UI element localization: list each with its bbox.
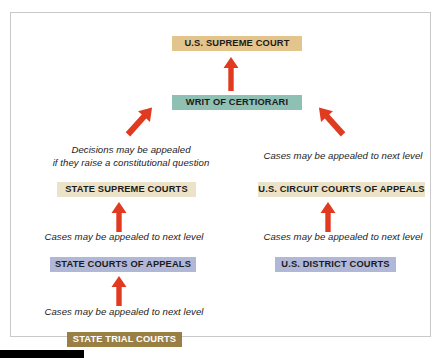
caption-constitutional-question: Decisions may be appealed if they raise … <box>31 144 231 169</box>
caption-trial-appeal: Cases may be appealed to next level <box>29 306 219 319</box>
node-state-supreme-courts: STATE SUPREME COURTS <box>57 182 196 197</box>
node-us-circuit-courts-of-appeals: U.S. CIRCUIT COURTS OF APPEALS <box>258 182 425 197</box>
node-label: STATE COURTS OF APPEALS <box>55 260 191 269</box>
arrow-up-left-circuit-to-writ-icon <box>310 101 352 141</box>
caption-state-appeal: Cases may be appealed to next level <box>29 231 219 244</box>
caption-district-appeal: Cases may be appealed to next level <box>247 231 439 244</box>
node-state-trial-courts: STATE TRIAL COURTS <box>67 332 182 347</box>
node-label: WRIT OF CERTIORARI <box>186 98 288 107</box>
arrow-up-trial-to-state-appeals-icon <box>111 276 127 306</box>
arrow-up-writ-to-supreme-court-icon <box>223 57 239 91</box>
caption-cert-right: Cases may be appealed to next level <box>247 150 439 163</box>
node-writ-of-certiorari: WRIT OF CERTIORARI <box>172 95 302 110</box>
node-label: U.S. CIRCUIT COURTS OF APPEALS <box>258 185 424 194</box>
node-label: U.S. SUPREME COURT <box>185 39 290 48</box>
arrow-up-district-to-circuit-icon <box>320 202 336 232</box>
court-system-diagram: U.S. SUPREME COURT WRIT OF CERTIORARI ST… <box>10 12 431 337</box>
arrow-up-state-appeals-to-state-supreme-icon <box>111 202 127 232</box>
node-us-supreme-court: U.S. SUPREME COURT <box>172 36 302 51</box>
node-state-courts-of-appeals: STATE COURTS OF APPEALS <box>50 257 196 272</box>
arrow-up-right-state-supreme-to-writ-icon <box>119 101 161 141</box>
node-label: U.S. DISTRICT COURTS <box>281 260 389 269</box>
node-label: STATE SUPREME COURTS <box>65 185 188 194</box>
node-us-district-courts: U.S. DISTRICT COURTS <box>275 257 396 272</box>
node-label: STATE TRIAL COURTS <box>73 335 176 344</box>
page-edge-artifact <box>0 350 84 358</box>
